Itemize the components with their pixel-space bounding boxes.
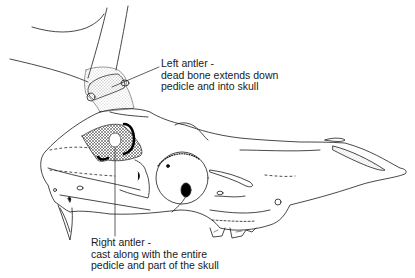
occipital-region [54, 186, 84, 240]
skull-outline [41, 109, 406, 231]
left-antler-label-line3: pedicle and into skull [161, 81, 278, 93]
left-antler-pedicle [85, 67, 135, 112]
left-antler-label-line1: Left antler - [161, 58, 278, 70]
orbit [156, 152, 208, 212]
right-antler-cast-region [82, 124, 142, 161]
right-antler-label-line1: Right antler - [91, 237, 219, 249]
right-antler-label-line3: pedicle and part of the skull [91, 260, 219, 272]
right-antler-label: Right antler - cast along with the entir… [91, 237, 219, 272]
preorbital-region [120, 160, 281, 205]
left-antler-label: Left antler - dead bone extends down ped… [161, 58, 278, 93]
